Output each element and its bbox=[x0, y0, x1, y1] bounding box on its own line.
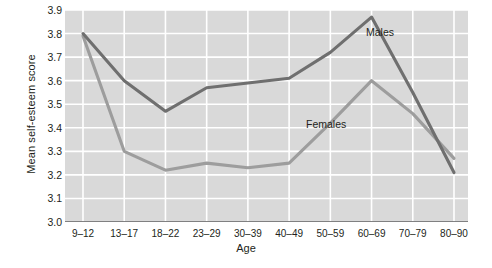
plot-area bbox=[65, 10, 468, 222]
x-axis-title: Age bbox=[0, 242, 492, 254]
chart-figure: Mean self-esteem score 3.03.13.23.33.43.… bbox=[0, 0, 492, 268]
y-axis-tick-label: 3.6 bbox=[28, 76, 62, 87]
y-axis-tick-label: 3.1 bbox=[28, 193, 62, 204]
y-axis-tick-label: 3.3 bbox=[28, 146, 62, 157]
x-axis-tick-labels: 9–1213–1718–2223–2930–3940–4950–5960–697… bbox=[65, 224, 468, 240]
series-label-females: Females bbox=[306, 118, 346, 130]
y-axis-tick-label: 3.5 bbox=[28, 99, 62, 110]
y-axis-tick-label: 3.7 bbox=[28, 52, 62, 63]
y-axis-tick-label: 3.9 bbox=[28, 5, 62, 16]
series-line-males bbox=[83, 17, 454, 172]
series-line-females bbox=[83, 36, 454, 170]
x-axis-tick-label: 80–90 bbox=[430, 228, 478, 239]
y-axis-tick-label: 3.4 bbox=[28, 123, 62, 134]
chart-canvas bbox=[65, 10, 468, 222]
y-axis-tick-label: 3.8 bbox=[28, 29, 62, 40]
series-label-males: Males bbox=[366, 26, 394, 38]
y-axis-tick-label: 3.2 bbox=[28, 170, 62, 181]
y-axis-tick-labels: 3.03.13.23.33.43.53.63.73.83.9 bbox=[22, 10, 62, 222]
y-axis-tick-label: 3.0 bbox=[28, 217, 62, 228]
